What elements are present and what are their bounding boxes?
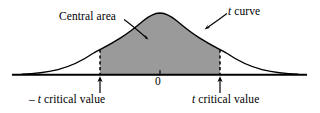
shaded-central-area	[100, 13, 220, 75]
negative-critical-value-label: – t critical value	[29, 94, 105, 106]
central-area-label: Central area	[59, 11, 116, 23]
positive-critical-value-label: t critical value	[192, 94, 259, 106]
t-distribution-figure: Central area t curve 0 – t critical valu…	[0, 0, 320, 113]
t-curve-label-text: curve	[231, 5, 260, 17]
origin-label: 0	[155, 76, 161, 88]
minus-sign: –	[29, 93, 38, 105]
left-critical-arrow	[97, 76, 102, 93]
t-curve-label: t curve	[228, 6, 260, 18]
pos-critical-text: critical value	[195, 93, 259, 105]
neg-critical-text: critical value	[41, 93, 105, 105]
t-curve-leader-arrow	[205, 14, 227, 30]
right-critical-arrow	[217, 76, 222, 93]
